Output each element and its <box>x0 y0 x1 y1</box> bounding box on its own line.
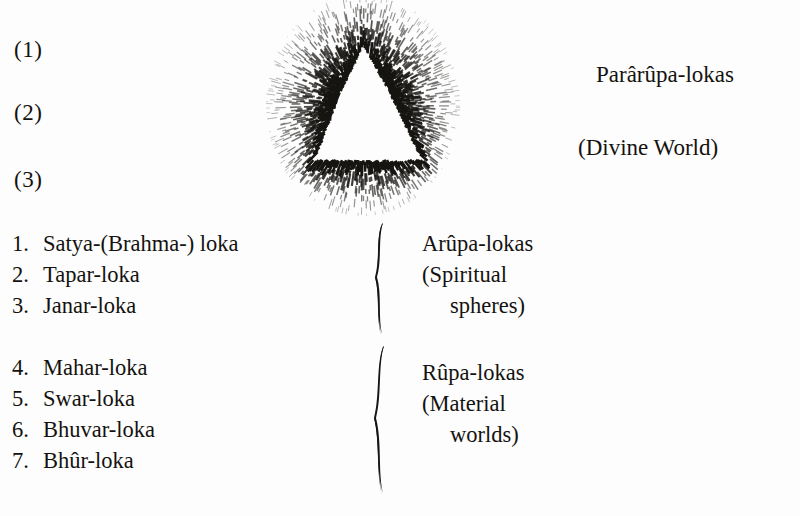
list-item-label: Bhuvar-loka <box>43 417 155 442</box>
list-item: 4.Mahar-loka <box>12 352 155 383</box>
marker-3: (3) <box>14 168 42 191</box>
arupa-lokas-subtitle-line-2: spheres) <box>422 290 533 321</box>
radiant-triangle-sunburst-icon <box>258 0 468 224</box>
rupa-lokas-title: Rûpa-lokas <box>422 357 524 388</box>
list-item-number: 2. <box>12 259 43 290</box>
marker-2: (2) <box>14 101 42 124</box>
list-item: 6.Bhuvar-loka <box>12 414 155 445</box>
list-item-number: 4. <box>12 352 43 383</box>
divine-world-label: (Divine World) <box>578 136 718 159</box>
curly-brace-arupa <box>368 222 394 336</box>
arupa-lokas-subtitle-line-1: (Spiritual <box>422 259 533 290</box>
list-item-label: Swar-loka <box>43 386 135 411</box>
list-item-label: Mahar-loka <box>43 355 148 380</box>
list-item: 5.Swar-loka <box>12 383 155 414</box>
list-item-label: Satya-(Brahma-) loka <box>43 231 239 256</box>
rupa-lokas-subtitle-line-1: (Material <box>422 388 524 419</box>
list-item-number: 5. <box>12 383 43 414</box>
list-item: 2.Tapar-loka <box>12 259 239 290</box>
list-item-label: Bhûr-loka <box>43 448 134 473</box>
marker-1: (1) <box>14 38 42 61</box>
list-item-label: Janar-loka <box>43 293 136 318</box>
list-item-label: Tapar-loka <box>43 262 140 287</box>
rupa-loka-list: 4.Mahar-loka 5.Swar-loka 6.Bhuvar-loka 7… <box>12 352 155 476</box>
curly-brace-rupa <box>368 345 394 495</box>
diagram-page: (1) (2) (3) Parârûpa-lokas (Divine World… <box>0 0 800 516</box>
rupa-lokas-subtitle-line-2: worlds) <box>422 419 524 450</box>
arupa-loka-list: 1.Satya-(Brahma-) loka 2.Tapar-loka 3.Ja… <box>12 228 239 321</box>
list-item-number: 7. <box>12 445 43 476</box>
list-item: 7.Bhûr-loka <box>12 445 155 476</box>
list-item-number: 1. <box>12 228 43 259</box>
list-item: 3.Janar-loka <box>12 290 239 321</box>
arupa-lokas-title: Arûpa-lokas <box>422 228 533 259</box>
list-item: 1.Satya-(Brahma-) loka <box>12 228 239 259</box>
list-item-number: 6. <box>12 414 43 445</box>
rupa-lokas-caption: Rûpa-lokas (Material worlds) <box>422 357 524 450</box>
pararupa-lokas-label: Parârûpa-lokas <box>596 63 734 86</box>
arupa-lokas-caption: Arûpa-lokas (Spiritual spheres) <box>422 228 533 321</box>
list-item-number: 3. <box>12 290 43 321</box>
